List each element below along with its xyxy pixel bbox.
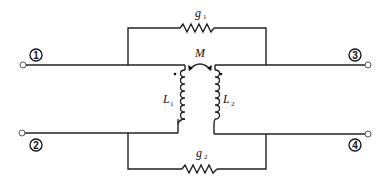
terminal-2[interactable] — [19, 130, 25, 136]
svg-text:M: M — [194, 46, 206, 60]
inductor-L1-icon — [174, 65, 185, 124]
label-g2: g 2 — [196, 146, 208, 161]
terminal-label-1: 1 — [30, 49, 42, 61]
terminal-label-3: 3 — [349, 49, 361, 61]
inductor-L2-icon — [214, 65, 222, 124]
svg-text:g: g — [196, 146, 202, 160]
svg-text:2: 2 — [204, 153, 208, 161]
L1-polarity-dot — [174, 73, 177, 76]
svg-text:1: 1 — [33, 50, 39, 61]
svg-text:L: L — [162, 92, 170, 106]
svg-text:1: 1 — [170, 100, 174, 108]
svg-text:2: 2 — [231, 100, 235, 108]
terminal-label-2: 2 — [30, 139, 42, 151]
svg-text:1: 1 — [203, 13, 207, 21]
svg-text:3: 3 — [352, 50, 358, 61]
label-g1: g 1 — [195, 6, 207, 21]
svg-text:4: 4 — [352, 140, 358, 151]
svg-text:2: 2 — [33, 140, 39, 151]
terminal-1[interactable] — [20, 62, 26, 68]
port-4-wire — [214, 124, 365, 134]
g1-resistor-icon — [180, 24, 214, 32]
circuit-diagram: 1 2 3 4 g 1 g 2 M L 1 L 2 — [0, 0, 391, 186]
g2-resistor-icon — [182, 165, 217, 173]
mutual-inductance-arrow-icon — [188, 64, 212, 71]
port-2-wire — [25, 124, 178, 133]
L2-polarity-dot — [220, 73, 223, 76]
label-L1: L 1 — [162, 92, 174, 108]
terminal-3[interactable] — [365, 62, 371, 68]
label-M: M — [194, 46, 206, 60]
svg-text:g: g — [195, 6, 201, 20]
svg-text:L: L — [222, 92, 230, 106]
terminal-4[interactable] — [365, 131, 371, 137]
label-L2: L 2 — [222, 92, 235, 108]
terminal-label-4: 4 — [349, 139, 361, 151]
